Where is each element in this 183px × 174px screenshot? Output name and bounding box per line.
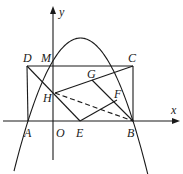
segment-da [27,66,28,121]
point-label-e: E [75,126,84,140]
x-axis-arrow-icon [172,118,180,124]
y-axis-arrow-icon [50,6,56,14]
point-labels: AOEBDMCGHF [22,51,137,140]
point-label-a: A [23,126,32,140]
point-label-c: C [128,51,137,65]
point-label-g: G [87,67,96,81]
segment-ef [80,100,117,121]
y-axis-label: y [58,5,65,19]
point-label-d: D [22,51,32,65]
point-label-b: B [127,126,135,140]
segment-gb [92,80,133,121]
geometry-figure: x y AOEBDMCGHF [0,0,183,174]
point-label-h: H [42,91,53,105]
point-label-o: O [56,126,65,140]
point-label-f: F [113,87,122,101]
x-axis-label: x [170,103,177,117]
point-label-m: M [40,51,52,65]
